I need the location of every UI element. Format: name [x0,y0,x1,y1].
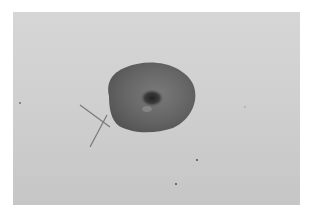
dimple-highlight [142,106,152,112]
speck [19,102,21,104]
speck [244,106,245,107]
speck [196,159,198,161]
photo-scene [13,12,300,205]
speck [175,183,177,185]
photograph: Grayscale photograph of a dark oval obje… [13,12,300,205]
cross-line-2 [90,115,107,147]
center-dimple [140,89,164,107]
cross-line-1 [80,105,110,127]
